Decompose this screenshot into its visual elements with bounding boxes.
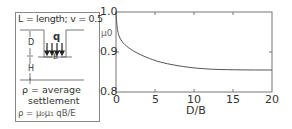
- x-tick-0: 0: [113, 93, 120, 106]
- mu0-curve: [116, 12, 272, 70]
- y-tick-1-0: 1.0: [100, 5, 118, 18]
- axis-ticks: [116, 12, 272, 92]
- x-tick-15: 15: [226, 93, 240, 106]
- x-axis-label: D/B: [186, 104, 206, 117]
- plot-frame: [116, 12, 272, 92]
- y-axis-label: μ0: [101, 28, 112, 38]
- load-arrows: [45, 43, 64, 55]
- y-tick-0-9: 0.9: [100, 45, 118, 58]
- footing-diagram: [20, 30, 84, 84]
- figure-graphics: [0, 0, 292, 129]
- x-tick-5: 5: [152, 93, 159, 106]
- x-tick-20: 20: [265, 93, 279, 106]
